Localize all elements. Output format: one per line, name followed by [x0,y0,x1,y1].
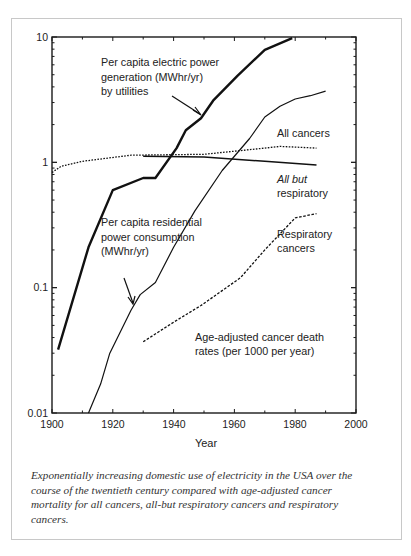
y-tick-0.1: 0.1 [33,281,48,293]
x-tick-1960: 1960 [222,418,246,430]
label-residential-1: Per capita residential [101,216,202,228]
y-tick-labels: 10 1 0.1 0.01 [28,31,49,419]
label-all-but-1: All but [276,173,308,185]
x-tick-1920: 1920 [101,418,125,430]
label-residential-3: (MWhr/yr) [101,245,149,257]
label-generation-3: by utilities [101,85,149,97]
label-residential-2: power consumption [101,231,195,243]
y-tick-1: 1 [42,156,48,168]
label-all-cancers: All cancers [277,127,330,139]
x-tick-1940: 1940 [162,418,186,430]
label-generation-1: Per capita electric power [101,56,220,68]
arrow-icon [124,278,133,303]
x-tick-1900: 1900 [40,418,64,430]
label-age-adjusted-1: Age-adjusted cancer death [195,331,324,343]
series-line-0 [58,38,292,350]
x-tick-1980: 1980 [283,418,307,430]
series-line-2 [52,146,317,172]
x-axis-label: Year [195,437,218,449]
label-respiratory-1: Respiratory [277,228,333,240]
label-respiratory-2: cancers [277,242,315,254]
x-tick-labels: 1900 1920 1940 1960 1980 2000 [40,418,368,430]
x-tick-2000: 2000 [344,418,368,430]
arrow-icon [193,107,201,115]
label-all-but-2: respiratory [277,187,329,199]
label-age-adjusted-2: rates (per 1000 per year) [195,345,314,357]
annotations: Per capita electric power generation (MW… [101,56,333,357]
label-generation-2: generation (MWhr/yr) [101,71,203,83]
y-tick-10: 10 [36,31,48,43]
figure-caption: Exponentially increasing domestic use of… [31,468,371,526]
